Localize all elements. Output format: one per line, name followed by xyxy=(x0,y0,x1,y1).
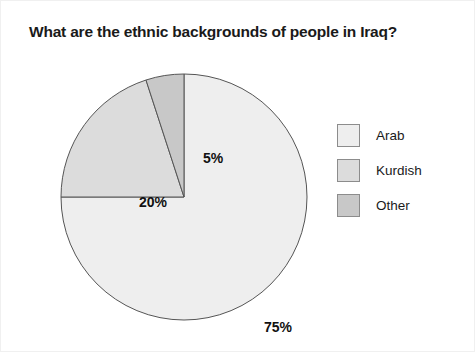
legend-item-kurdish[interactable]: Kurdish xyxy=(337,153,467,188)
slice-label-kurdish: 20% xyxy=(139,194,167,210)
legend-swatch-other xyxy=(337,194,360,217)
chart-canvas: What are the ethnic backgrounds of peopl… xyxy=(0,0,475,352)
legend-item-arab[interactable]: Arab xyxy=(337,118,467,153)
legend-label-other: Other xyxy=(376,198,410,213)
legend-item-other[interactable]: Other xyxy=(337,188,467,223)
legend-swatch-kurdish xyxy=(337,159,360,182)
slice-label-arab: 75% xyxy=(264,319,292,335)
chart-legend: Arab Kurdish Other xyxy=(337,118,467,223)
pie-svg xyxy=(59,72,309,322)
legend-label-kurdish: Kurdish xyxy=(376,163,422,178)
legend-label-arab: Arab xyxy=(376,128,405,143)
chart-title: What are the ethnic backgrounds of peopl… xyxy=(29,23,459,41)
pie-chart: 5% 20% 75% xyxy=(59,72,309,322)
slice-label-other: 5% xyxy=(203,150,223,166)
legend-swatch-arab xyxy=(337,124,360,147)
